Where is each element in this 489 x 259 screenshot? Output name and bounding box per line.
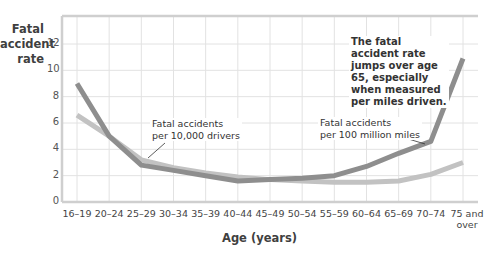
x-tick-label: 40–44 bbox=[220, 208, 256, 219]
annotation-text: Fatal accidents bbox=[320, 117, 420, 129]
x-tick-label: 16–19 bbox=[59, 208, 95, 219]
annotation-per-drivers: Fatal accidents per 10,000 drivers bbox=[150, 118, 242, 141]
y-tick-label: 6 bbox=[47, 116, 59, 127]
x-tick-label: 55–59 bbox=[316, 208, 352, 219]
x-tick-label: 35–39 bbox=[188, 208, 224, 219]
x-tick-label: 70–74 bbox=[413, 208, 449, 219]
y-tick-label: 2 bbox=[47, 169, 59, 180]
y-tick-label: 12 bbox=[47, 37, 59, 48]
x-tick-label: 65–69 bbox=[381, 208, 417, 219]
leader-line-drivers bbox=[148, 143, 165, 158]
y-tick-label: 4 bbox=[47, 142, 59, 153]
x-tick-label: 20–24 bbox=[91, 208, 127, 219]
annotation-per-miles: Fatal accidents per 100 million miles bbox=[318, 117, 422, 140]
x-axis-label: Age (years) bbox=[0, 231, 489, 245]
y-tick-label: 0 bbox=[47, 195, 59, 206]
annotation-note: The fatal accident rate jumps over age 6… bbox=[349, 36, 449, 108]
y-axis-label: Fatal accident rate bbox=[0, 22, 44, 67]
x-tick-label: 60–64 bbox=[349, 208, 385, 219]
annotation-text: per 10,000 drivers bbox=[152, 130, 240, 142]
x-tick-label: 50–54 bbox=[284, 208, 320, 219]
x-tick-label: 30–34 bbox=[156, 208, 192, 219]
y-tick-label: 8 bbox=[47, 90, 59, 101]
x-tick-label: 75 andover bbox=[449, 208, 485, 230]
annotation-text: Fatal accidents bbox=[152, 118, 240, 130]
annotation-text: per 100 million miles bbox=[320, 129, 420, 141]
x-tick-label: 25–29 bbox=[123, 208, 159, 219]
x-tick-label: 45–49 bbox=[252, 208, 288, 219]
y-tick-label: 10 bbox=[47, 63, 59, 74]
